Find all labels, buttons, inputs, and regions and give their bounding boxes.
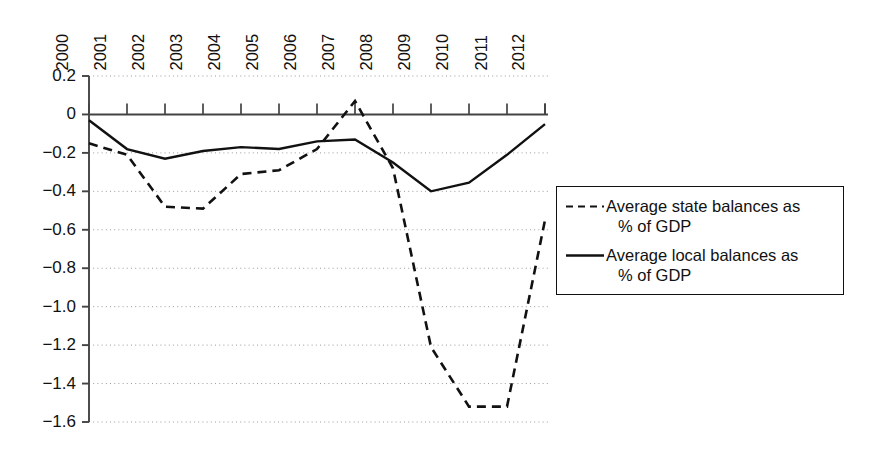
y-tick-label: −1.2 [14,336,76,353]
x-tick-label-year: 2001 [92,33,109,70]
y-tick-label-wrap-8: −1.4 [14,375,76,393]
x-tick-label-year: 2008 [358,33,375,70]
y-tick-label-wrap-1: 0 [14,105,76,123]
y-tick-label: 0 [14,105,76,122]
dashed-line-swatch-icon [564,196,606,217]
series-line-state-balances [89,101,545,407]
x-tick-label-year: 2005 [244,33,261,70]
y-tick-label: −0.4 [14,182,76,199]
x-tick-label-year: 2007 [320,33,337,70]
chart-legend: Average state balances as % of GDP Avera… [556,186,844,295]
y-tick-label: −0.8 [14,259,76,276]
series-line-local-balances [89,120,545,191]
y-tick-label-wrap-5: −0.8 [14,259,76,277]
x-tick-label-year: 2003 [168,33,185,70]
x-tick-label-year: 2009 [396,33,413,70]
y-tick-label: −0.2 [14,144,76,161]
y-tick-label: −0.6 [14,221,76,238]
legend-label-local-line1: Average local balances as [606,246,798,264]
chart-figure: 0.20−0.2−0.4−0.6−0.8−1.0−1.2−1.4−1.6 200… [0,0,874,454]
x-tick-label-year: 2006 [282,33,299,70]
y-tick-label: −1.6 [14,413,76,430]
legend-label-state-balances: Average state balances as % of GDP [606,196,835,236]
y-tick-label-wrap-4: −0.6 [14,221,76,239]
legend-label-state-line2: % of GDP [606,216,835,236]
solid-line-swatch-icon [564,245,606,266]
x-tick-label-year: 2002 [130,33,147,70]
legend-label-local-line2: % of GDP [606,265,835,285]
legend-item-state-balances: Average state balances as % of GDP [564,196,835,236]
y-tick-label: −1.0 [14,298,76,315]
y-tick-label-wrap-9: −1.6 [14,413,76,431]
y-tick-label: −1.4 [14,375,76,392]
y-tick-label-wrap-6: −1.0 [14,298,76,316]
x-tick-label-year: 2000 [54,33,71,70]
legend-item-local-balances: Average local balances as % of GDP [564,245,835,285]
x-tick-label-year: 2012 [510,33,527,70]
legend-label-local-balances: Average local balances as % of GDP [606,245,835,285]
x-tick-label-year: 2010 [434,33,451,70]
y-tick-label-wrap-2: −0.2 [14,144,76,162]
x-tick-label-wrap-12: 2012 [536,4,554,70]
x-tick-label-year: 2004 [206,33,223,70]
y-tick-label-wrap-3: −0.4 [14,182,76,200]
legend-label-state-line1: Average state balances as [606,197,800,215]
x-tick-label-year: 2011 [473,35,490,70]
y-tick-label-wrap-7: −1.2 [14,336,76,354]
